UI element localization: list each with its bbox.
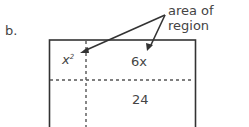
arrowhead-x2-icon bbox=[80, 47, 89, 53]
arrow-to-x2 bbox=[84, 15, 165, 51]
annotation-label: area of region bbox=[168, 3, 249, 33]
region-6x: 6x bbox=[131, 54, 147, 69]
part-label: b. bbox=[5, 23, 17, 38]
region-x-squared: x2 bbox=[62, 52, 74, 67]
region-24: 24 bbox=[132, 92, 149, 107]
